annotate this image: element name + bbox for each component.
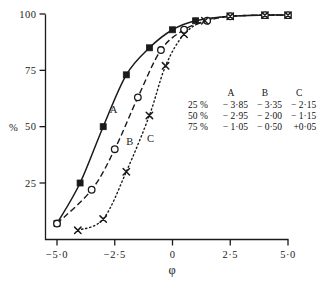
y-tick-label: 25 [25,178,37,189]
table-cell-75-b: − 0·50 [248,122,282,133]
table-cell-75-a: − 1·05 [214,122,248,133]
table-cell-75-c: +0·05 [282,122,316,133]
table-row: 25 % − 3·85 − 3·35 − 2·15 [188,100,316,111]
marker-cross [162,63,168,69]
table: A B C 25 % − 3·85 − 3·35 − 2·15 50 % − 2… [188,88,316,133]
x-axis-label: φ [168,263,175,277]
curve-labels: ABC [110,104,154,147]
table-header-row: A B C [188,88,316,100]
y-tick-label: 75 [25,65,37,76]
marker-open-circle [111,146,118,153]
figure-container: 255075100−5·0−2·502·55·0 ABC φ% A B C 25… [0,0,319,281]
marker-open-circle [158,47,165,54]
x-tick-label: 2·5 [223,249,239,260]
axis-labels: φ% [9,122,176,277]
curve-label-a: A [110,104,118,115]
table-cell-25-c: − 2·15 [282,100,316,111]
marker-filled-square [100,124,106,130]
table-col-header-a: A [214,88,248,100]
table-row-label-50: 50 % [188,111,214,122]
table-row: 50 % − 2·95 − 2·00 − 1·15 [188,111,316,122]
table-row-label-25: 25 % [188,100,214,111]
table-row: 75 % − 1·05 − 0·50 +0·05 [188,122,316,133]
percentile-table: A B C 25 % − 3·85 − 3·35 − 2·15 50 % − 2… [188,88,316,133]
table-cell-50-c: − 1·15 [282,111,316,122]
marker-filled-square [193,18,199,24]
curve-label-b: B [126,136,133,147]
table-row-label-75: 75 % [188,122,214,133]
table-corner-cell [188,88,214,100]
marker-filled-square [146,45,152,51]
marker-cross [75,227,81,233]
x-tick-label: 0 [170,249,176,260]
table-cell-50-b: − 2·00 [248,111,282,122]
table-cell-25-b: − 3·35 [248,100,282,111]
marker-open-circle [88,186,95,193]
x-tick-label: −5·0 [46,249,68,260]
y-tick-label: 100 [19,9,36,20]
marker-open-circle [135,94,142,101]
marker-open-circle [54,220,61,227]
table-col-header-c: C [282,88,316,100]
marker-filled-square [77,180,83,186]
table-col-header-b: B [248,88,282,100]
x-tick-label: 5·0 [280,249,296,260]
curve-label-c: C [147,133,154,144]
x-tick-label: −2·5 [104,249,126,260]
marker-filled-square [170,27,176,33]
marker-cross [100,216,106,222]
table-cell-25-a: − 3·85 [214,100,248,111]
y-tick-label: 50 [25,121,37,132]
line-chart: 255075100−5·0−2·502·55·0 ABC φ% [0,0,319,281]
marker-cross [123,169,129,175]
table-cell-50-a: − 2·95 [214,111,248,122]
marker-filled-square [123,72,129,78]
marker-cross [146,112,152,118]
y-axis-label: % [9,122,18,133]
